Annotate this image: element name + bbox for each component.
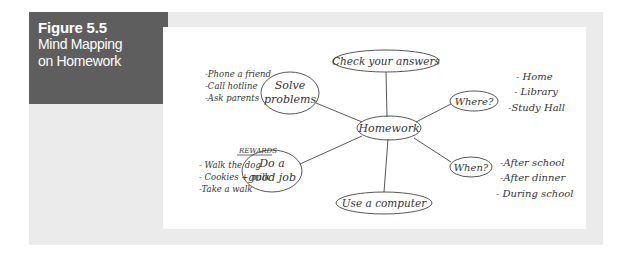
connector-where bbox=[416, 104, 451, 122]
node-check: Check your answers bbox=[332, 55, 441, 67]
rewards-item: - Walk the dog bbox=[199, 160, 261, 170]
connector-when bbox=[414, 138, 451, 162]
rewards-heading: REWARDS bbox=[238, 147, 277, 155]
where-list-item: - Home bbox=[516, 71, 553, 82]
where-list-item: -Study Hall bbox=[508, 102, 565, 113]
node-computer: Use a computer bbox=[342, 197, 427, 209]
when-list-item: -After dinner bbox=[500, 172, 566, 183]
node-solve-line2: problems bbox=[264, 93, 316, 106]
solve-list-item: -Call hotline bbox=[205, 81, 258, 91]
solve-list-item: -Ask parents bbox=[205, 93, 260, 103]
node-solve-line1: Solve bbox=[275, 79, 306, 92]
node-where: Where? bbox=[455, 96, 494, 107]
solve-list-item: -Phone a friend bbox=[205, 69, 272, 79]
where-list-item: - Library bbox=[514, 86, 558, 97]
when-list-item: -After school bbox=[500, 157, 564, 168]
connector-job bbox=[300, 136, 362, 164]
node-when: When? bbox=[454, 162, 489, 173]
when-list-item: - During school bbox=[496, 188, 573, 199]
connector-computer bbox=[384, 139, 388, 192]
rewards-item: -Take a walk bbox=[199, 184, 253, 194]
connector-check bbox=[386, 72, 387, 117]
rewards-item: - Cookies + milk bbox=[199, 172, 270, 182]
node-job-line1: Do a bbox=[258, 157, 285, 170]
mind-map-diagram: Homework Check your answers Solve proble… bbox=[0, 0, 624, 258]
node-homework: Homework bbox=[357, 122, 419, 135]
connector-solve bbox=[316, 103, 362, 122]
